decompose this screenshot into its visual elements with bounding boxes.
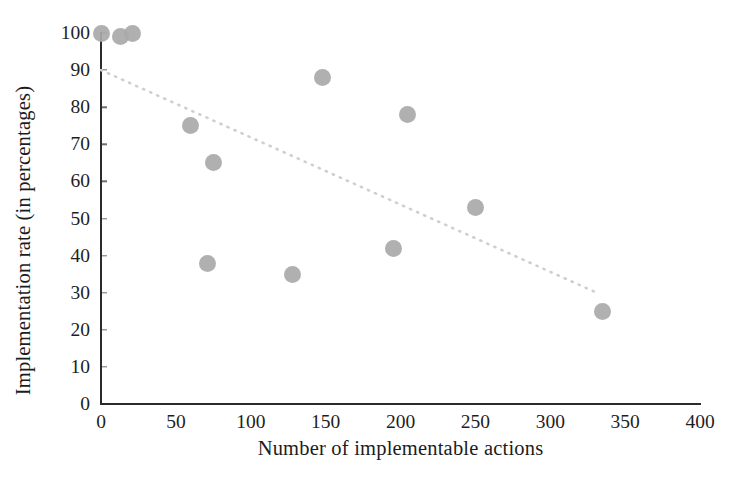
y-tick-label: 60	[38, 172, 90, 192]
x-axis-line	[100, 403, 701, 405]
y-tick-mark	[102, 106, 107, 107]
data-point	[314, 69, 331, 86]
y-tick-mark	[102, 255, 107, 256]
y-tick-mark	[102, 181, 107, 182]
y-tick-mark	[102, 218, 107, 219]
x-tick-label: 300	[536, 412, 565, 432]
data-point	[124, 25, 141, 42]
y-tick-mark	[102, 144, 107, 145]
data-point	[467, 199, 484, 216]
y-tick-label: 0	[38, 394, 90, 414]
x-tick-label: 200	[386, 412, 415, 432]
y-tick-label: 80	[38, 97, 90, 117]
x-tick-label: 350	[611, 412, 640, 432]
data-point	[385, 240, 402, 257]
y-tick-label: 90	[38, 60, 90, 80]
x-tick-label: 150	[311, 412, 340, 432]
y-tick-mark	[102, 69, 107, 70]
y-tick-label: 30	[38, 283, 90, 303]
x-tick-label: 250	[461, 412, 490, 432]
y-tick-mark	[102, 329, 107, 330]
y-tick-label: 100	[38, 23, 90, 43]
x-tick-label: 0	[96, 412, 106, 432]
data-point	[205, 154, 222, 171]
y-tick-label: 70	[38, 135, 90, 155]
data-point	[199, 255, 216, 272]
x-axis-title: Number of implementable actions	[101, 437, 700, 460]
x-tick-label: 400	[685, 412, 714, 432]
scatter-chart-figure: 0102030405060708090100 05010015020025030…	[0, 0, 741, 481]
y-tick-label: 20	[38, 320, 90, 340]
y-tick-label: 10	[38, 357, 90, 377]
data-point	[93, 25, 110, 42]
y-axis-title: Implementation rate (in percentages)	[12, 0, 42, 481]
y-tick-label: 50	[38, 209, 90, 229]
y-tick-mark	[102, 292, 107, 293]
y-tick-mark	[102, 366, 107, 367]
y-tick-label: 40	[38, 246, 90, 266]
data-point	[182, 117, 199, 134]
x-tick-label: 50	[166, 412, 186, 432]
trend-line	[0, 0, 741, 481]
data-point	[594, 303, 611, 320]
data-point	[399, 106, 416, 123]
data-point	[284, 266, 301, 283]
x-tick-label: 100	[236, 412, 265, 432]
